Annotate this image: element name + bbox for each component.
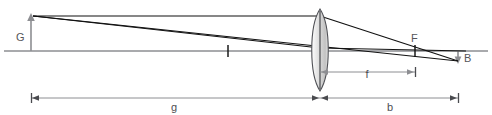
image-distance-arrow-right — [450, 95, 457, 101]
optics-diagram-canvas: G B F f g b — [0, 0, 492, 115]
image-distance-arrow-left — [321, 95, 328, 101]
focal-length-arrow-right — [407, 69, 414, 75]
object-height-label: G — [16, 31, 25, 43]
object-arrow-head — [27, 13, 35, 21]
focal-ray-incident — [33, 16, 320, 48]
image-distance-label: b — [387, 101, 393, 113]
focal-point-label: F — [411, 32, 418, 44]
object-distance-label: g — [171, 101, 177, 113]
object-distance-arrow-left — [32, 95, 39, 101]
image-height-label: B — [464, 52, 471, 64]
object-distance-arrow-right — [312, 95, 319, 101]
optics-ray-diagram: G B F f g b — [0, 0, 492, 115]
focal-length-label: f — [365, 68, 369, 80]
